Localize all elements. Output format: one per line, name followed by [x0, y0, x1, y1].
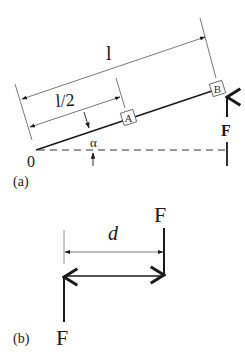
angle-arrow-top: [84, 112, 89, 128]
force-top-label: F: [154, 202, 166, 227]
point-a-label: A: [125, 112, 133, 124]
figure-a: A B l l/2 0 α F (a): [13, 18, 231, 190]
figure-a-label: (a): [13, 174, 29, 190]
extension-line-a: [116, 78, 125, 108]
angle-label: α: [90, 135, 97, 150]
half-length-label: l/2: [55, 90, 75, 111]
distance-label: d: [108, 222, 119, 244]
origin-label: 0: [27, 153, 35, 170]
figure-b-label: (b): [13, 331, 30, 347]
dimension-line-half-l: [30, 97, 120, 127]
dimension-line-l: [22, 37, 205, 99]
extension-line-b: [200, 18, 216, 78]
force-bottom-label: F: [56, 325, 68, 350]
length-label: l: [106, 42, 112, 64]
figure-b: d F F (b): [13, 202, 166, 350]
diagram-canvas: A B l l/2 0 α F (a) d F F (b): [0, 0, 245, 361]
extension-line-origin: [15, 84, 32, 140]
point-b-label: B: [214, 83, 221, 95]
force-label-a: F: [221, 122, 231, 139]
